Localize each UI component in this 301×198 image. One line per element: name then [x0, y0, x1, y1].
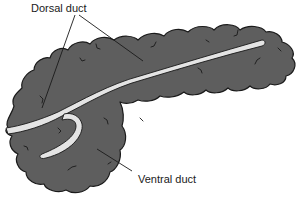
ventral-duct-label: Ventral duct — [138, 174, 196, 185]
dorsal-duct-label: Dorsal duct — [31, 3, 87, 14]
pancreas-body — [6, 25, 295, 193]
pancreas-diagram — [0, 0, 301, 198]
